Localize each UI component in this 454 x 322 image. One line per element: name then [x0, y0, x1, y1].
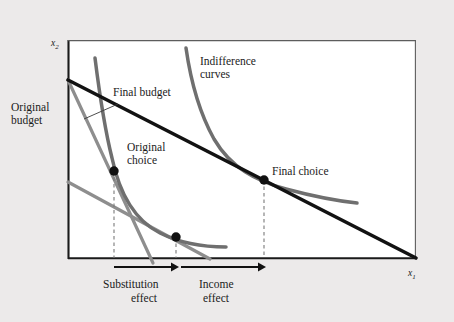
- substitution-point: [171, 232, 180, 241]
- final-choice-point: [259, 175, 268, 184]
- final-budget-label: Final budget: [113, 86, 172, 99]
- plot-area-background: [68, 40, 416, 259]
- income-effect-label-line2: effect: [203, 292, 230, 304]
- final-choice-label: Final choice: [272, 165, 329, 177]
- income-effect-label-line1: Income: [199, 278, 233, 290]
- indifference-curves-label-line1: Indifference: [200, 55, 256, 67]
- original-choice-label-line2: choice: [127, 154, 157, 166]
- original-budget-label-line1: Original: [11, 101, 49, 114]
- original-budget-label-line2: budget: [11, 114, 43, 127]
- substitution-effect-label-line2: effect: [131, 292, 158, 304]
- original-choice-label-line1: Original: [127, 141, 165, 154]
- indifference-curves-label-line2: curves: [200, 68, 231, 80]
- substitution-effect-label-line1: Substitution: [103, 278, 159, 290]
- figure-container: x2 x1 Indifference curves Final budget O…: [0, 0, 454, 322]
- original-choice-point: [109, 166, 118, 175]
- economics-diagram-svg: x2 x1 Indifference curves Final budget O…: [0, 0, 454, 322]
